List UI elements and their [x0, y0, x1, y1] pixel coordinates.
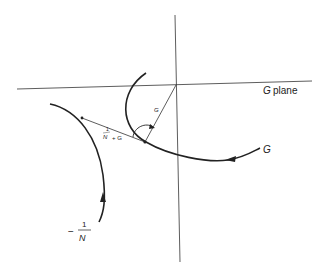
point-g	[143, 140, 146, 143]
g-locus-curve	[126, 73, 260, 161]
minus-sign: −	[68, 226, 74, 237]
vector-g	[145, 85, 176, 142]
sum-label-numerator: 1	[106, 126, 109, 132]
g-plane-diagram: G plane G G 1 N + G − 1 N	[0, 0, 329, 274]
vector-g-label: G	[154, 107, 159, 113]
g-curve-label: G	[263, 144, 271, 155]
sum-fraction-bar	[103, 132, 110, 133]
sum-label-denominator: N	[103, 134, 108, 140]
imaginary-axis	[175, 15, 180, 262]
plane-word: plane	[273, 85, 298, 96]
sum-label-tail: + G	[112, 135, 122, 141]
point-inverse-n	[81, 117, 84, 120]
plane-symbol: G	[263, 85, 271, 96]
inverse-n-locus-curve	[50, 104, 104, 222]
inverse-n-denominator: N	[79, 233, 86, 243]
inverse-n-numerator: 1	[82, 220, 87, 229]
g-curve-arrow-icon	[225, 156, 236, 162]
